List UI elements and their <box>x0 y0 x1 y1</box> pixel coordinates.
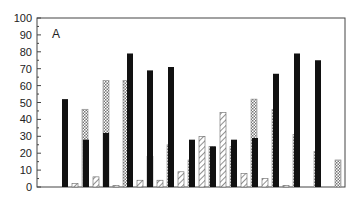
y-tick-label: 20 <box>20 147 32 159</box>
y-tick-label: 60 <box>20 80 32 92</box>
bar-chart: 0102030405060708090100 A <box>0 0 363 202</box>
bar-diagonal-hatch <box>220 113 226 187</box>
bar-diagonal-hatch <box>157 180 163 187</box>
bar-diagonal-hatch <box>72 184 78 187</box>
bar-diagonal-hatch <box>262 179 268 187</box>
bar-solid-black <box>103 133 109 187</box>
y-tick-label: 80 <box>20 46 32 58</box>
bar-solid-black <box>315 60 321 187</box>
bar-solid-black <box>168 67 174 187</box>
chart-canvas: 0102030405060708090100 A <box>0 0 363 202</box>
bar-diagonal-hatch <box>241 173 247 187</box>
bar-diagonal-hatch <box>178 172 184 187</box>
bar-group <box>315 60 341 187</box>
y-tick-label: 100 <box>14 12 32 24</box>
bar-solid-black <box>273 74 279 187</box>
panel-label: A <box>52 27 60 41</box>
y-tick-label: 30 <box>20 130 32 142</box>
y-tick-label: 40 <box>20 113 32 125</box>
bar-diagonal-hatch <box>199 136 205 187</box>
bar-solid-black <box>147 70 153 187</box>
bar-solid-black <box>127 53 133 187</box>
bar-diagonal-hatch <box>283 185 289 187</box>
y-tick-label: 10 <box>20 164 32 176</box>
bar-diagonal-hatch <box>137 180 143 187</box>
bar-solid-black <box>294 53 300 187</box>
y-tick-label: 90 <box>20 29 32 41</box>
bar-solid-black <box>62 99 68 187</box>
y-tick-label: 50 <box>20 97 32 109</box>
bar-solid-black <box>83 140 89 187</box>
bar-solid-black <box>189 140 195 187</box>
bar-solid-black <box>210 146 216 187</box>
bar-diagonal-hatch <box>113 185 119 187</box>
y-tick-label: 70 <box>20 63 32 75</box>
bar-solid-black <box>231 140 237 187</box>
bar-checkered <box>335 160 341 187</box>
y-tick-label: 0 <box>26 181 32 193</box>
bar-diagonal-hatch <box>93 177 99 187</box>
bar-solid-black <box>252 138 258 187</box>
bar-series <box>62 53 341 187</box>
